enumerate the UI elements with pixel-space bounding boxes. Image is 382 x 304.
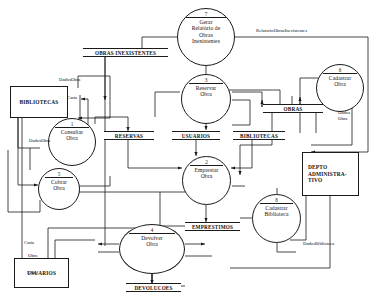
datastore-reservas[interactable]: RESERVAS bbox=[104, 131, 154, 140]
flow-label-dados-obra-top: DadosObra bbox=[59, 77, 80, 82]
flow-label-dados-obra-left: DadosObra bbox=[29, 138, 50, 143]
process-2-divider bbox=[190, 165, 224, 166]
datastore-bibliotecas[interactable]: BIBLIOTECAS bbox=[233, 131, 285, 140]
process-7-divider bbox=[186, 17, 226, 18]
datastore-devolucoes[interactable]: DEVOLUCOES bbox=[126, 283, 181, 292]
datastore-obras[interactable]: OBRAS bbox=[263, 104, 323, 113]
process-4-divider bbox=[129, 233, 175, 234]
process-5-divider bbox=[45, 177, 74, 178]
entity-depto-administrativo[interactable]: DEPTO ADMINISTRA- TIVO bbox=[302, 152, 359, 196]
datastore-usuarios[interactable]: USUARIOS bbox=[172, 131, 220, 140]
datastore-devolucoes-label: DEVOLUCOES bbox=[134, 285, 172, 291]
datastore-emprestimos[interactable]: EMPRESTIMOS bbox=[185, 222, 240, 231]
process-5-cobrar-obra[interactable]: 5 Cobrar Obra bbox=[38, 168, 80, 210]
process-7-gerar-relatorio[interactable]: 7 Gerar Relatório de Obras Inexistentes bbox=[177, 8, 235, 66]
process-3-label-line2: Obra bbox=[198, 91, 214, 97]
entity-depto-label-line3: TIVO bbox=[303, 177, 365, 183]
process-1-consultar-obra[interactable]: 1 Consultar Obra bbox=[48, 118, 96, 166]
process-8-cadastrar-biblioteca[interactable]: 8 Cadastrar Biblioteca bbox=[252, 194, 301, 243]
process-6-cadastrar-obra[interactable]: 6 Cadastrar Obra bbox=[316, 64, 364, 112]
datastore-obras-label: OBRAS bbox=[284, 106, 303, 112]
process-2-emprestar-obra[interactable]: 2 Emprestar Obra bbox=[182, 156, 231, 205]
datastore-obras-inexistentes[interactable]: OBRAS INEXISTENTES bbox=[83, 48, 168, 57]
flow-label-carta-bottom: Carta bbox=[24, 240, 34, 245]
datastore-obras-inexistentes-label: OBRAS INEXISTENTES bbox=[95, 50, 156, 56]
flow-label-dados-obra-right-line2: Obra bbox=[338, 116, 360, 121]
flow-label-relatorio-obras-inexistentes: RelatorioObrasInexistentes bbox=[256, 28, 307, 33]
flow-label-carta-top: Carta bbox=[67, 95, 77, 100]
process-8-divider bbox=[260, 203, 294, 204]
process-4-devolver-obra[interactable]: 4 Devolver Obra bbox=[119, 224, 185, 274]
process-8-label-line2: Biblioteca bbox=[263, 211, 291, 217]
entity-bibliotecas-label: BIBLIOTECAS bbox=[18, 99, 61, 105]
process-5-label-line2: Obra bbox=[51, 185, 67, 191]
datastore-emprestimos-label: EMPRESTIMOS bbox=[192, 224, 233, 230]
datastore-bibliotecas-label: BIBLIOTECAS bbox=[240, 133, 278, 139]
entity-bibliotecas[interactable]: BIBLIOTECAS bbox=[10, 86, 68, 118]
process-2-label-line2: Obra bbox=[199, 173, 215, 179]
datastore-usuarios-label: USUARIOS bbox=[182, 133, 210, 139]
datastore-reservas-label: RESERVAS bbox=[115, 133, 143, 139]
flow-label-dados-obra-right-line1: Dados bbox=[338, 110, 360, 115]
process-7-label-line4: Inexistentes bbox=[190, 38, 222, 44]
process-4-label-line2: Obra bbox=[144, 241, 160, 247]
process-1-divider bbox=[55, 127, 88, 128]
dfd-diagram-canvas: 7 Gerar Relatório de Obras Inexistentes … bbox=[0, 0, 382, 304]
flow-label-obra-upper: Obra bbox=[28, 253, 37, 258]
process-3-divider bbox=[189, 83, 224, 84]
process-6-divider bbox=[323, 73, 356, 74]
process-1-label-line2: Obra bbox=[64, 135, 80, 141]
process-3-reservar-obra[interactable]: 3 Reservar Obra bbox=[181, 74, 231, 124]
process-6-label-line2: Obra bbox=[332, 81, 348, 87]
flow-label-obra-lower: Obra bbox=[28, 270, 37, 275]
entity-usuarios[interactable]: USUARIOS bbox=[14, 258, 69, 288]
flow-label-dados-biblioteca: DadosBiblioteca bbox=[303, 241, 334, 246]
